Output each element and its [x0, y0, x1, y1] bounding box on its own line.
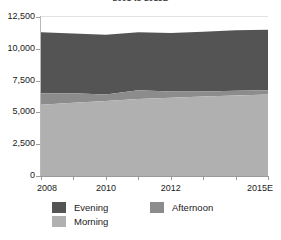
- x-tick-label-2010: 2010: [96, 183, 116, 193]
- area-band-morning: [41, 95, 268, 176]
- y-tick-label-7500: 7,500: [0, 76, 35, 85]
- x-tick-label-2015E: 2015E: [247, 183, 273, 193]
- y-tick-12500: [36, 17, 40, 18]
- y-tick-10000: [36, 49, 40, 50]
- x-tick-2011: [138, 176, 139, 180]
- legend-label-evening: Evening: [74, 202, 108, 213]
- area-series-svg: [41, 17, 268, 176]
- x-tick-label-2008: 2008: [37, 183, 57, 193]
- plot-area: [41, 17, 268, 176]
- stacked-area-chart: 2008 to 2015E 12,500 10,000 7,500 5,000 …: [0, 0, 281, 240]
- x-tick-2013: [203, 176, 204, 180]
- y-tick-5000: [36, 112, 40, 113]
- x-tick-2012: [171, 176, 172, 180]
- legend-label-afternoon: Afternoon: [172, 202, 213, 213]
- legend-swatch-morning-icon: [52, 216, 66, 227]
- x-tick-2009: [73, 176, 74, 180]
- y-tick-2500: [36, 144, 40, 145]
- chart-legend: Evening Afternoon Morning: [52, 202, 252, 230]
- x-tick-2014: [236, 176, 237, 180]
- y-tick-label-10000: 10,000: [0, 44, 35, 53]
- legend-swatch-afternoon-icon: [150, 202, 164, 213]
- x-tick-label-2012: 2012: [161, 183, 181, 193]
- legend-item-evening[interactable]: Evening: [52, 202, 150, 213]
- y-tick-label-2500: 2,500: [0, 139, 35, 148]
- x-tick-2015E: [268, 176, 269, 180]
- legend-label-morning: Morning: [74, 216, 108, 227]
- chart-title: 2008 to 2015E: [0, 0, 281, 1]
- area-band-evening: [41, 30, 268, 95]
- y-tick-label-5000: 5,000: [0, 107, 35, 116]
- legend-row-1: Evening Afternoon: [52, 202, 252, 213]
- y-tick-label-12500: 12,500: [0, 12, 35, 21]
- legend-row-2: Morning: [52, 216, 252, 227]
- x-tick-2010: [106, 176, 107, 180]
- legend-swatch-evening-icon: [52, 202, 66, 213]
- legend-item-afternoon[interactable]: Afternoon: [150, 202, 213, 213]
- x-tick-2008: [41, 176, 42, 180]
- y-tick-7500: [36, 81, 40, 82]
- y-tick-label-0: 0: [0, 171, 35, 180]
- legend-item-morning[interactable]: Morning: [52, 216, 150, 227]
